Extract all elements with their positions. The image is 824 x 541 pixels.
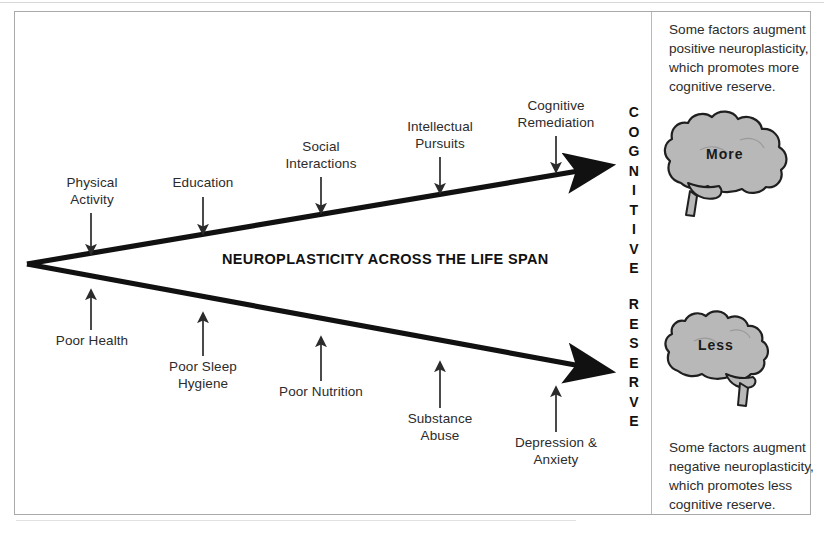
axis-letter: R bbox=[624, 295, 644, 315]
negative-factor-label-substance-abuse: Substance Abuse bbox=[388, 410, 492, 444]
side-note-negative: Some factors augment negative neuroplast… bbox=[669, 438, 819, 514]
axis-label-reserve: R E S E R V E bbox=[624, 295, 644, 432]
brain-less-illustration bbox=[665, 311, 767, 406]
axis-letter: N bbox=[624, 162, 644, 182]
axis-letter: O bbox=[624, 123, 644, 143]
negative-factor-label-depression-anxiety: Depression & Anxiety bbox=[496, 434, 616, 468]
axis-letter: T bbox=[624, 201, 644, 221]
negative-factor-label-poor-health: Poor Health bbox=[38, 332, 146, 349]
positive-factor-label-social-interactions: Social Interactions bbox=[268, 138, 374, 172]
axis-letter: E bbox=[624, 412, 644, 432]
axis-letter: V bbox=[624, 240, 644, 260]
axis-letter: I bbox=[624, 220, 644, 240]
axis-letter: V bbox=[624, 393, 644, 413]
brain-more-illustration bbox=[665, 112, 787, 216]
axis-letter: E bbox=[624, 354, 644, 374]
axis-letter: E bbox=[624, 259, 644, 279]
brain-label-more: More bbox=[706, 146, 743, 162]
negative-factor-label-poor-sleep-hygiene: Poor Sleep Hygiene bbox=[152, 358, 254, 392]
positive-factor-label-cognitive-remediation: Cognitive Remediation bbox=[498, 97, 614, 131]
axis-letter: C bbox=[624, 103, 644, 123]
center-title: NEUROPLASTICITY ACROSS THE LIFE SPAN bbox=[222, 251, 549, 267]
axis-letter: G bbox=[624, 142, 644, 162]
negative-trend-arrow bbox=[27, 264, 608, 371]
axis-letter: S bbox=[624, 334, 644, 354]
axis-letter: I bbox=[624, 181, 644, 201]
axis-letter: E bbox=[624, 315, 644, 335]
axis-label-cognitive: C O G N I T I V E bbox=[624, 103, 644, 279]
neuroplasticity-figure: Physical Activity Education Social Inter… bbox=[0, 0, 824, 541]
positive-factor-label-physical-activity: Physical Activity bbox=[46, 174, 138, 208]
page-rule-bottom bbox=[16, 520, 576, 521]
positive-factor-label-education: Education bbox=[153, 174, 253, 191]
axis-letter: R bbox=[624, 373, 644, 393]
side-note-positive: Some factors augment positive neuroplast… bbox=[669, 20, 819, 96]
positive-factor-label-intellectual-pursuits: Intellectual Pursuits bbox=[385, 118, 495, 152]
brain-label-less: Less bbox=[698, 337, 734, 353]
negative-factor-label-poor-nutrition: Poor Nutrition bbox=[262, 383, 380, 400]
